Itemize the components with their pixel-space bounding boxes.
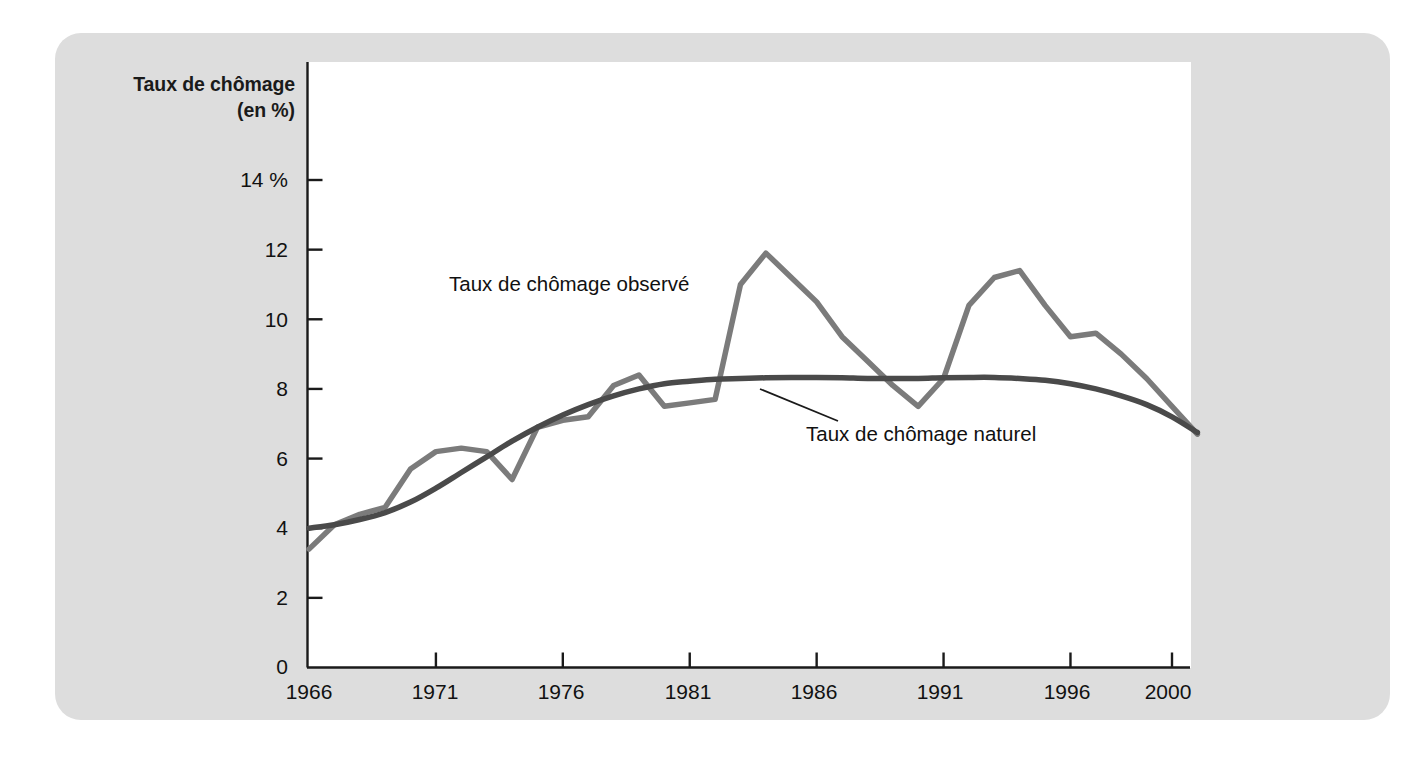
chart-figure: Taux de chômage (en %) 14 % 12 10 8 6 4 … [0,0,1417,768]
tick-marks-group [308,180,1173,668]
axes-group [307,62,1190,668]
series-line-observed [309,253,1197,549]
series-lines-group [309,253,1197,549]
chart-vector-layer [0,0,1417,768]
natural-label-leader-line [760,389,838,421]
